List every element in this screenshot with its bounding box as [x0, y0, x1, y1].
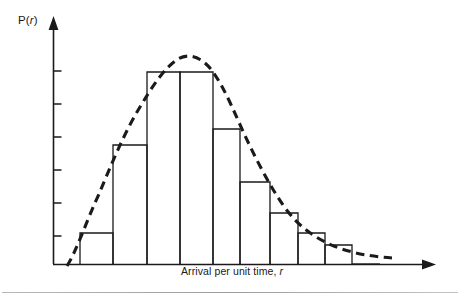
x-axis-label-variable: r — [280, 265, 284, 277]
bar-6 — [240, 182, 270, 264]
bar-1 — [80, 233, 113, 264]
x-axis-label-text: Arrival per unit time, — [181, 265, 280, 277]
bar-3 — [147, 72, 180, 264]
y-axis-label-prefix: P( — [18, 14, 30, 26]
bar-5 — [213, 129, 240, 264]
page-bottom-rule — [2, 292, 458, 293]
y-axis-arrow-icon — [49, 16, 59, 30]
y-axis-label: P(r) — [18, 14, 38, 26]
bar-2 — [113, 145, 147, 264]
bar-7 — [270, 213, 298, 264]
bar-8 — [298, 233, 325, 264]
x-axis-label: Arrival per unit time, r — [181, 265, 283, 277]
figure-container: P(r) Arrival per unit time, r — [0, 0, 462, 303]
y-axis-ticks — [54, 71, 62, 236]
fitted-distribution-curve — [67, 56, 392, 266]
bar-4 — [180, 72, 213, 264]
bar-9 — [325, 245, 352, 264]
x-axis-arrow-icon — [422, 260, 436, 270]
y-axis-label-suffix: ) — [34, 14, 38, 26]
chart-plot-area — [0, 0, 462, 303]
